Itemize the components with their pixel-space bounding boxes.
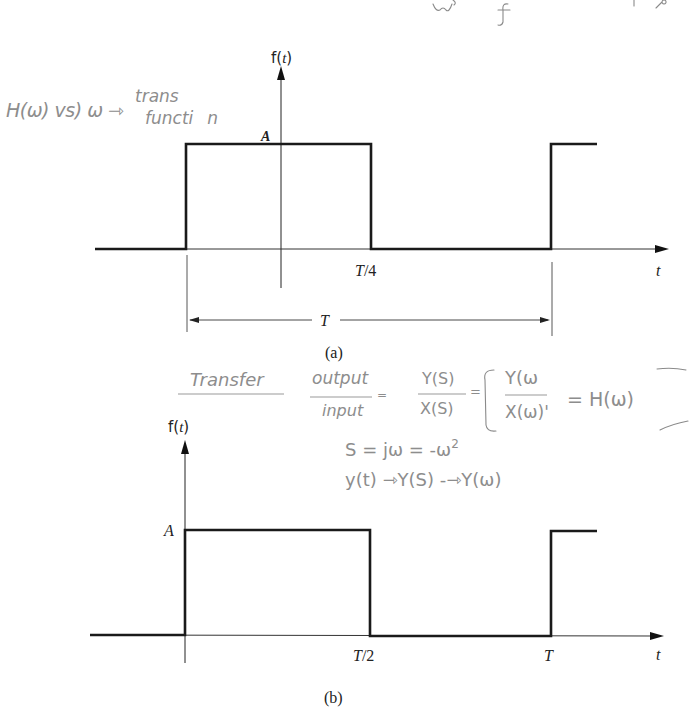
- chart-a-xlabel: t: [656, 262, 661, 279]
- chart-a-ylabel: f(t): [271, 49, 292, 67]
- chart-a-amplitude-label: A: [260, 129, 270, 144]
- chart-a-tick-T4: T/4: [355, 262, 376, 279]
- chart-a: f(t) t A T/4 T (a): [95, 49, 669, 362]
- svg-text:y(t) ⇾Y(S) -⇾Y(ω): y(t) ⇾Y(S) -⇾Y(ω): [345, 469, 501, 490]
- chart-b-amplitude-label: A: [163, 522, 174, 539]
- handwritten-transfer-note: H(ω) vs) ω ⇾ trans functin: [6, 86, 218, 128]
- svg-text:Y(ω: Y(ω: [504, 367, 538, 388]
- handwritten-top-fragment: [433, 0, 666, 25]
- figure-canvas: f(t) t A T/4 T (a) H(ω) vs) ω ⇾ trans fu…: [0, 0, 691, 715]
- svg-text:trans: trans: [135, 86, 179, 106]
- svg-text:functin: functin: [145, 108, 218, 128]
- svg-text:X(S): X(S): [420, 399, 454, 418]
- chart-b-ylabel: f(t): [168, 418, 189, 436]
- chart-b-caption: (b): [324, 689, 343, 707]
- chart-b-tick-T2: T/2: [353, 647, 374, 664]
- chart-b-y-arrow-icon: [181, 440, 189, 454]
- handwritten-transfer-equation: Transfer output input = Y(S) X(S) = Y(ω …: [178, 367, 688, 490]
- chart-a-y-arrow-icon: [277, 66, 285, 80]
- chart-b: f(t) t A T/2 T (b): [90, 418, 664, 707]
- chart-a-x-arrow-icon: [655, 245, 669, 253]
- svg-text:S = jω = -ω2: S = jω = -ω2: [345, 437, 459, 460]
- chart-b-x-arrow-icon: [650, 632, 664, 640]
- chart-b-tick-T: T: [544, 647, 554, 664]
- chart-b-xlabel: t: [656, 646, 661, 663]
- chart-b-waveform: [90, 530, 597, 636]
- chart-a-caption: (a): [325, 344, 343, 362]
- chart-a-period-label: T: [320, 312, 330, 329]
- svg-text:= H(ω): = H(ω): [567, 388, 634, 410]
- svg-text:output: output: [312, 368, 369, 388]
- svg-text:input: input: [322, 401, 364, 420]
- svg-text:Y(S): Y(S): [421, 369, 454, 388]
- svg-text:=: =: [377, 388, 387, 402]
- svg-text:H(ω) vs) ω ⇾: H(ω) vs) ω ⇾: [6, 99, 124, 121]
- chart-a-waveform: [95, 144, 597, 249]
- svg-text:X(ω)': X(ω)': [505, 402, 549, 422]
- svg-text:=: =: [470, 384, 481, 399]
- svg-text:Transfer: Transfer: [190, 369, 265, 390]
